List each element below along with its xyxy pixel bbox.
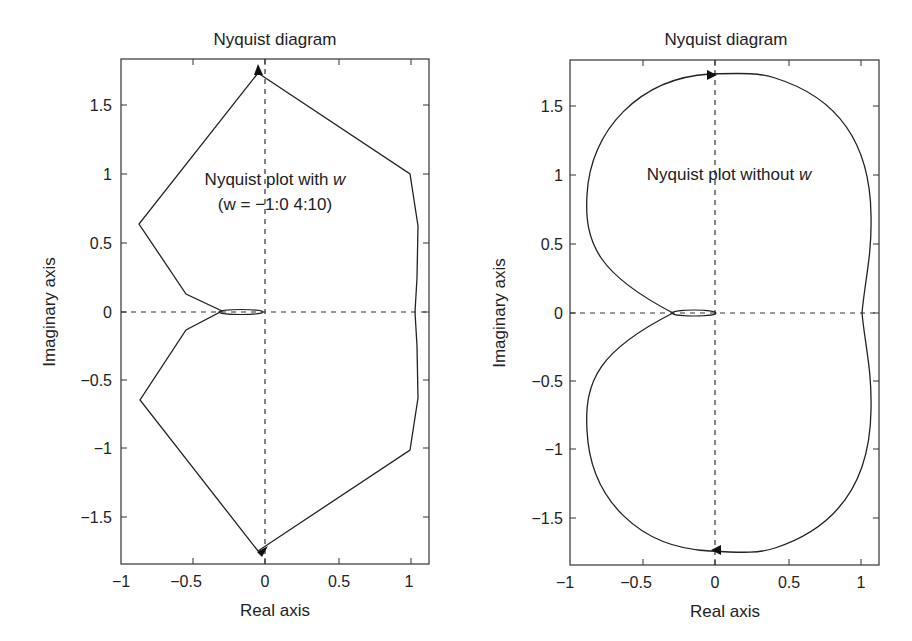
svg-text:0.5: 0.5 <box>328 573 350 590</box>
svg-text:0.5: 0.5 <box>90 235 112 252</box>
svg-text:1: 1 <box>554 167 563 184</box>
svg-text:0: 0 <box>554 305 563 322</box>
right-x-axis-label: Real axis <box>690 602 760 621</box>
left-nyquist-curve <box>139 73 418 551</box>
left-annotation-line2: (w = −1:0 4:10) <box>218 195 332 214</box>
right-x-tick-labels: −1 −0.5 0 0.5 1 <box>556 574 866 591</box>
svg-text:−1: −1 <box>94 440 112 457</box>
right-annotation: Nyquist plot without w <box>647 165 813 184</box>
right-plot: Nyquist diagram −1 −0.5 0 0.5 1 1.5 1 <box>490 30 879 621</box>
svg-text:−0.5: −0.5 <box>620 574 652 591</box>
svg-text:1: 1 <box>857 574 866 591</box>
svg-text:0: 0 <box>261 573 270 590</box>
svg-text:1: 1 <box>405 573 414 590</box>
svg-text:−1: −1 <box>545 441 563 458</box>
svg-text:−1.5: −1.5 <box>80 509 112 526</box>
svg-text:0.5: 0.5 <box>541 236 563 253</box>
svg-text:1.5: 1.5 <box>90 97 112 114</box>
nyquist-figure: Nyquist diagram −1 −0.5 0 0.5 1 <box>0 0 912 641</box>
svg-text:1: 1 <box>103 166 112 183</box>
svg-text:0.5: 0.5 <box>778 574 800 591</box>
svg-text:−0.5: −0.5 <box>80 372 112 389</box>
left-y-tick-labels: 1.5 1 0.5 0 −0.5 −1 −1.5 <box>80 97 112 526</box>
right-y-tick-labels: 1.5 1 0.5 0 −0.5 −1 −1.5 <box>531 98 563 527</box>
svg-text:1.5: 1.5 <box>541 98 563 115</box>
left-y-axis-label: Imaginary axis <box>40 257 59 367</box>
svg-text:−1: −1 <box>556 574 574 591</box>
right-plot-title: Nyquist diagram <box>665 30 788 49</box>
left-x-axis-label: Real axis <box>240 601 310 620</box>
right-nyquist-curve <box>587 73 871 552</box>
svg-text:−1.5: −1.5 <box>531 510 563 527</box>
svg-text:0: 0 <box>103 304 112 321</box>
svg-text:−1: −1 <box>112 573 130 590</box>
svg-text:0: 0 <box>711 574 720 591</box>
left-plot-title: Nyquist diagram <box>214 30 337 49</box>
right-y-axis-label: Imaginary axis <box>490 258 509 368</box>
left-annotation-line1: Nyquist plot with w <box>205 170 348 189</box>
svg-text:−0.5: −0.5 <box>531 373 563 390</box>
left-plot: Nyquist diagram −1 −0.5 0 0.5 1 <box>40 30 429 620</box>
left-x-tick-labels: −1 −0.5 0 0.5 1 <box>112 573 414 590</box>
left-arrow-up-icon <box>254 64 263 75</box>
svg-text:−0.5: −0.5 <box>170 573 202 590</box>
right-arrow-left-icon <box>711 545 721 555</box>
